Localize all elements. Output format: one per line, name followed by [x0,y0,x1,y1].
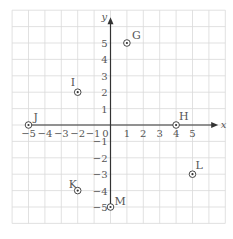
x-tick-label: 1 [124,128,130,139]
y-axis-arrow-icon [108,17,114,24]
point-I: I [71,76,81,95]
point-dot [109,206,111,208]
point-label: H [179,110,189,123]
point-label: M [115,195,126,208]
x-tick-label: 5 [189,128,195,139]
point-dot [27,124,29,126]
x-tick-label: −5 [21,128,36,139]
point-L: L [189,159,203,177]
point-dot [126,42,128,44]
x-tick-label: −2 [70,128,85,139]
y-axis-label: y [101,11,108,22]
point-dot [191,173,193,175]
point-J: J [25,111,38,128]
x-tick-label: 2 [140,128,146,139]
x-axis-label: x [221,119,227,130]
point-label: J [33,111,38,124]
y-tick-label: −5 [93,202,108,213]
point-label: I [71,76,75,89]
grid-lines [12,10,225,223]
x-tick-label: −3 [54,128,69,139]
y-tick-label: 1 [101,104,107,115]
x-tick-label: 4 [173,128,179,139]
x-tick-label: −4 [38,128,53,139]
y-tick-label: −2 [93,153,108,164]
y-tick-label: −1 [93,136,108,147]
y-tick-label: 3 [101,71,107,82]
point-label: G [132,29,141,42]
coordinate-plane: xy −5−4−3−2−101234554321−1−2−3−4−5 GIJHK… [0,0,233,239]
y-tick-label: 4 [101,54,107,65]
x-axis-arrow-icon [211,122,218,128]
y-tick-label: −4 [93,186,108,197]
point-dot [77,91,79,93]
y-tick-label: 2 [101,87,107,98]
point-dot [175,124,177,126]
y-tick-label: 5 [101,38,107,49]
point-label: K [69,178,78,191]
y-tick-label: −3 [93,169,108,180]
point-label: L [196,159,204,172]
point-K: K [69,178,81,194]
plotted-points: GIJHKLM [25,29,203,210]
x-tick-label: 3 [157,128,163,139]
point-G: G [124,29,141,46]
point-dot [77,190,79,192]
